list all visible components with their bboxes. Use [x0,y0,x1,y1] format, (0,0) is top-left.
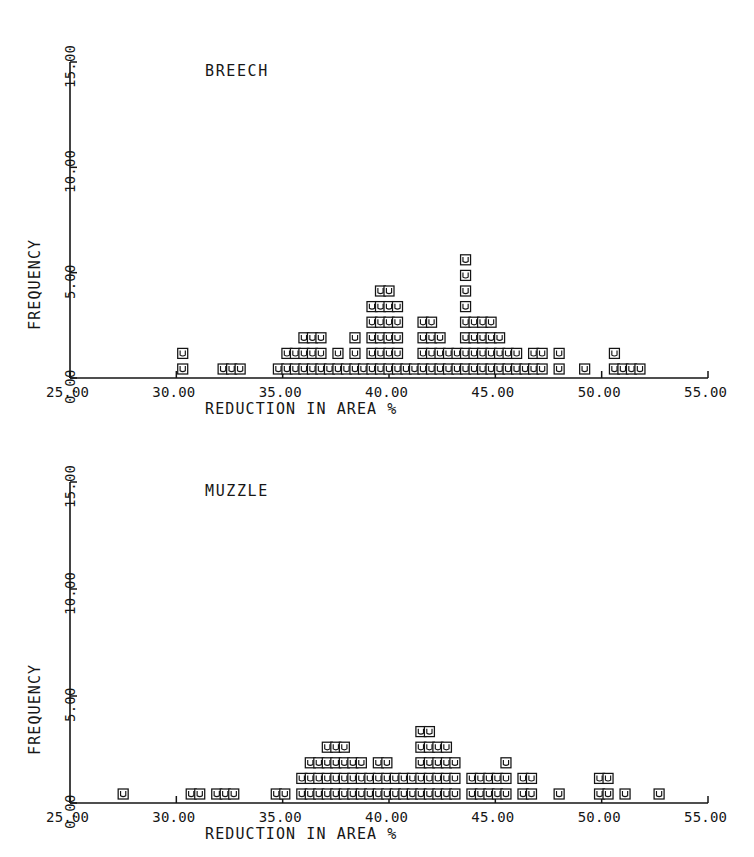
breech-data-marker [486,317,496,327]
breech-data-marker [393,302,403,312]
breech-data-marker [554,348,564,358]
muzzle-ytick-label: 15.00 [62,465,78,508]
muzzle-data-marker [424,727,434,737]
breech-xtick-label: 50.00 [578,384,621,400]
muzzle-xtick-label: 45.00 [471,809,514,825]
muzzle-data-marker [356,758,366,768]
breech-data-marker [316,348,326,358]
breech-data-marker [537,348,547,358]
plot-panel-muzzle: MUZZLE REDUCTION IN AREA % FREQUENCY 25.… [0,420,754,857]
muzzle-data-marker [526,789,536,799]
muzzle-data-marker [501,773,511,783]
muzzle-data-marker [526,773,536,783]
breech-data-marker [235,364,245,374]
muzzle-data-marker [195,789,205,799]
muzzle-data-marker [450,789,460,799]
breech-ytick-label: 5.00 [62,264,78,299]
muzzle-data-marker [229,789,239,799]
figure-dot-plots: BREECH REDUCTION IN AREA % FREQUENCY 25.… [0,0,754,857]
muzzle-ytick-label: 10.00 [62,572,78,615]
breech-data-marker [554,364,564,374]
breech-plot-title: BREECH [205,62,269,80]
muzzle-data-marker [339,742,349,752]
muzzle-x-axis-label: REDUCTION IN AREA % [205,825,397,843]
muzzle-data-marker [118,789,128,799]
muzzle-data-marker [450,773,460,783]
muzzle-data-marker [620,789,630,799]
breech-data-marker [580,364,590,374]
breech-data-marker [461,286,471,296]
breech-ytick-label: 0.00 [62,369,78,404]
breech-data-marker [512,348,522,358]
breech-ytick-label: 10.00 [62,150,78,193]
breech-data-marker [350,333,360,343]
muzzle-plot-canvas [0,420,754,857]
breech-data-marker [635,364,645,374]
breech-data-marker [461,255,471,265]
breech-data-marker [178,348,188,358]
muzzle-xtick-label: 35.00 [259,809,302,825]
breech-data-marker [427,317,437,327]
breech-data-marker [178,364,188,374]
breech-xtick-label: 45.00 [471,384,514,400]
muzzle-data-marker [603,773,613,783]
muzzle-xtick-label: 50.00 [578,809,621,825]
breech-data-marker [393,317,403,327]
muzzle-data-marker [280,789,290,799]
muzzle-y-axis-label: FREQUENCY [26,664,44,755]
muzzle-data-marker [441,742,451,752]
muzzle-data-marker [501,758,511,768]
breech-xtick-label: 30.00 [152,384,195,400]
muzzle-xtick-label: 40.00 [365,809,408,825]
breech-data-marker [461,270,471,280]
muzzle-data-marker [450,758,460,768]
breech-xtick-label: 40.00 [365,384,408,400]
breech-data-marker [537,364,547,374]
muzzle-data-marker [654,789,664,799]
breech-data-marker [384,286,394,296]
muzzle-data-marker [382,758,392,768]
breech-y-axis-label: FREQUENCY [26,239,44,330]
breech-data-marker [316,333,326,343]
muzzle-xtick-label: 55.00 [684,809,727,825]
muzzle-data-marker [501,789,511,799]
muzzle-data-marker [603,789,613,799]
breech-data-marker [495,333,505,343]
plot-panel-breech: BREECH REDUCTION IN AREA % FREQUENCY 25.… [0,0,754,430]
muzzle-data-marker [554,789,564,799]
muzzle-xtick-label: 30.00 [152,809,195,825]
breech-data-marker [435,333,445,343]
breech-data-marker [609,348,619,358]
breech-ytick-label: 15.00 [62,45,78,88]
breech-data-marker [333,348,343,358]
breech-xtick-label: 35.00 [259,384,302,400]
muzzle-plot-title: MUZZLE [205,482,269,500]
muzzle-ytick-label: 0.00 [62,794,78,829]
breech-plot-canvas [0,0,754,430]
breech-data-marker [393,348,403,358]
breech-data-marker [461,302,471,312]
breech-x-axis-label: REDUCTION IN AREA % [205,400,397,418]
breech-data-marker [350,348,360,358]
breech-xtick-label: 55.00 [684,384,727,400]
muzzle-ytick-label: 5.00 [62,687,78,722]
breech-data-marker [393,333,403,343]
